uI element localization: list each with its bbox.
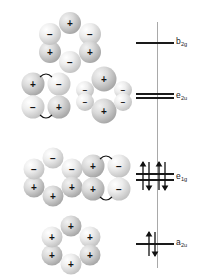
svg-text:−: − xyxy=(121,98,126,107)
svg-text:+: + xyxy=(69,182,75,193)
orbital-e2u-right: + + − − − − xyxy=(76,66,132,124)
level-line-e2u-a xyxy=(136,93,174,95)
svg-text:+: + xyxy=(31,182,37,193)
svg-text:+: + xyxy=(90,161,96,172)
svg-text:−: − xyxy=(116,161,122,172)
level-label-b2g: b2g xyxy=(176,37,187,46)
electron-arrow-e1g-down-2 xyxy=(161,160,168,192)
svg-text:+: + xyxy=(56,102,62,113)
svg-text:−: − xyxy=(116,184,122,195)
orbital-e1g-left: − − − + + + xyxy=(22,148,84,204)
electron-arrow-e1g-down-1 xyxy=(145,160,152,192)
level-line-b2g xyxy=(136,42,174,44)
svg-text:+: + xyxy=(101,74,107,85)
svg-text:+: + xyxy=(87,250,93,261)
svg-text:+: + xyxy=(49,232,55,243)
svg-text:−: − xyxy=(69,164,75,175)
electron-arrow-a2u-down xyxy=(151,230,158,258)
benzene-mo-diagram: + − + − + − + − − + xyxy=(0,0,197,280)
svg-text:+: + xyxy=(49,250,55,261)
svg-text:+: + xyxy=(87,232,93,243)
level-label-e1g: e1g xyxy=(176,172,187,181)
level-label-e2u: e2u xyxy=(176,91,187,100)
svg-text:−: − xyxy=(67,57,73,68)
level-line-e2u-b xyxy=(136,97,174,99)
svg-text:+: + xyxy=(47,47,53,58)
svg-text:−: − xyxy=(47,29,53,40)
orbital-b2g: + − + − + − xyxy=(36,12,104,70)
svg-text:−: − xyxy=(87,29,93,40)
svg-text:−: − xyxy=(31,164,37,175)
level-label-a2u: a2u xyxy=(176,238,187,247)
svg-text:−: − xyxy=(83,98,88,107)
svg-text:−: − xyxy=(121,86,126,95)
svg-text:+: + xyxy=(87,47,93,58)
svg-text:+: + xyxy=(50,191,56,202)
svg-text:−: − xyxy=(56,79,62,90)
orbital-e2u-left: + − − + xyxy=(18,70,74,122)
svg-text:+: + xyxy=(90,184,96,195)
svg-text:−: − xyxy=(30,102,36,113)
svg-text:+: + xyxy=(68,221,74,232)
svg-text:+: + xyxy=(30,79,36,90)
orbital-a2u: + + + + + + xyxy=(38,216,104,272)
svg-text:−: − xyxy=(50,153,56,164)
svg-text:+: + xyxy=(67,18,73,29)
svg-text:+: + xyxy=(68,259,74,270)
orbital-e1g-right: + − + − xyxy=(78,152,134,204)
svg-text:+: + xyxy=(101,106,107,117)
svg-text:−: − xyxy=(83,86,88,95)
